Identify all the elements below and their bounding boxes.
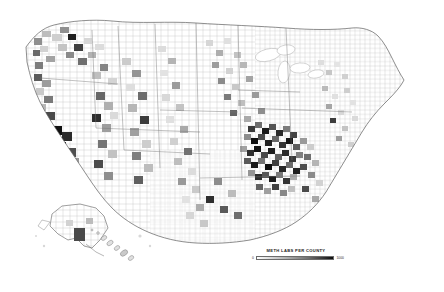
legend-title: METH LABS PER COUNTY: [258, 248, 334, 253]
legend-gradient-bar: [256, 256, 335, 260]
map-figure: SOURCE: DEA MAP BY STAMEN DESIGN METH LA…: [0, 0, 444, 292]
legend-max-label: 1000: [336, 256, 344, 260]
map-legend: METH LABS PER COUNTY 0 1000: [252, 248, 344, 260]
legend-scale: 0 1000: [252, 256, 344, 260]
us-county-choropleth: [0, 0, 444, 292]
legend-min-label: 0: [252, 256, 254, 260]
